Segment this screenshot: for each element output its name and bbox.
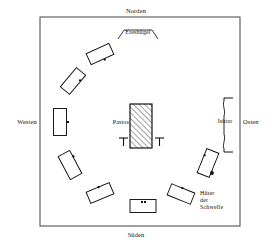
pastos-rectangle: [130, 104, 152, 148]
seat-s: [130, 200, 156, 213]
ishtar-label: Ishtar: [212, 118, 238, 125]
direction-label-north: Norden: [0, 7, 272, 14]
seat-se-rect: [167, 184, 195, 204]
seat-w-rect: [54, 109, 67, 136]
direction-label-east: Osten: [243, 118, 271, 125]
seat-sw-lower: [86, 182, 114, 204]
direction-label-south: Süden: [0, 231, 272, 238]
seat-s-dot-2: [144, 201, 146, 203]
seat-e-rect: [197, 149, 219, 178]
seat-se: [167, 183, 195, 204]
seat-e: [197, 148, 219, 177]
hueter-line-3: Schwelle: [200, 204, 242, 211]
hueter-line-2: der: [200, 197, 242, 204]
seat-w: [54, 109, 70, 136]
t-marker-right: [155, 138, 164, 146]
seat-s-dot-1: [141, 201, 143, 203]
seat-nw-upper: [86, 43, 115, 66]
seat-sw-lower-rect: [86, 183, 114, 204]
direction-label-west: Westen: [10, 118, 44, 125]
seat-sw-upper: [58, 150, 83, 180]
seat-sw-lower-dot-1: [97, 186, 100, 189]
seat-nw-upper-rect: [86, 43, 114, 64]
diagram-canvas: Norden Süden Westen Osten Ereshügel Past…: [0, 0, 272, 247]
seat-se-dot-1: [181, 187, 184, 190]
hueter-der-schwelle-label: Hüter der Schwelle: [200, 190, 242, 212]
ereshuegel-label: Ereshügel: [110, 29, 166, 36]
hueter-line-1: Hüter: [200, 190, 242, 197]
seat-nw-lower: [60, 68, 85, 95]
seat-w-dot-1: [67, 121, 69, 123]
seat-nw-lower-rect: [60, 68, 85, 95]
t-marker-left: [119, 138, 128, 146]
pastos-label: Pastos: [103, 119, 129, 126]
seat-sw-upper-rect: [58, 150, 82, 179]
